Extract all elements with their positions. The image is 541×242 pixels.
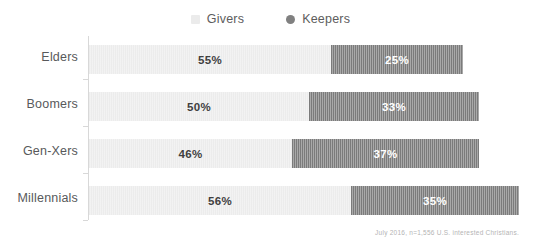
bar-value-keepers: 35% — [423, 195, 447, 207]
bar-rows: Elders 55% 25% Boomers 50% — [0, 34, 541, 222]
bar-value-keepers: 33% — [382, 101, 406, 113]
legend-label-keepers: Keepers — [302, 12, 350, 26]
bar-stack-millennials: 56% 35% — [89, 186, 519, 215]
category-label-gen-xers: Gen-Xers — [0, 140, 78, 162]
bar-value-keepers: 37% — [374, 148, 398, 160]
bar-segment-givers: 55% — [89, 45, 331, 74]
bar-value-keepers: 25% — [385, 54, 409, 66]
legend-swatch-keepers-icon — [286, 15, 295, 24]
category-label-millennials: Millennials — [0, 187, 78, 209]
bar-stack-boomers: 50% 33% — [89, 92, 479, 121]
y-axis-tick — [83, 126, 88, 127]
y-axis-tick — [83, 220, 88, 221]
chart-legend: Givers Keepers — [0, 10, 541, 28]
bar-stack-gen-xers: 46% 37% — [89, 139, 479, 168]
plot-area: Elders 55% 25% Boomers 50% — [0, 34, 541, 222]
bar-value-givers: 56% — [208, 195, 232, 207]
legend-label-givers: Givers — [207, 12, 244, 26]
bar-segment-keepers: 35% — [351, 186, 519, 215]
bar-value-givers: 55% — [198, 54, 222, 66]
legend-item-keepers: Keepers — [286, 12, 350, 26]
bar-segment-givers: 46% — [89, 139, 292, 168]
table-row: Gen-Xers 46% 37% — [0, 128, 541, 175]
chart-footnote: July 2016, n=1,556 U.S. interested Chris… — [375, 229, 519, 236]
category-label-elders: Elders — [0, 46, 78, 68]
bar-segment-keepers: 33% — [309, 92, 479, 121]
bar-segment-keepers: 25% — [331, 45, 463, 74]
table-row: Millennials 56% 35% — [0, 175, 541, 222]
bar-value-givers: 46% — [179, 148, 203, 160]
bar-segment-givers: 56% — [89, 186, 351, 215]
y-axis-tick — [83, 173, 88, 174]
category-label-boomers: Boomers — [0, 93, 78, 115]
stacked-bar-chart: Givers Keepers Elders 55% 25% — [0, 0, 541, 242]
bar-segment-givers: 50% — [89, 92, 309, 121]
y-axis-tick — [83, 79, 88, 80]
bar-stack-elders: 55% 25% — [89, 45, 463, 74]
legend-item-givers: Givers — [191, 12, 244, 26]
table-row: Elders 55% 25% — [0, 34, 541, 81]
bar-segment-keepers: 37% — [292, 139, 479, 168]
table-row: Boomers 50% 33% — [0, 81, 541, 128]
legend-swatch-givers-icon — [191, 15, 200, 24]
bar-value-givers: 50% — [187, 101, 211, 113]
